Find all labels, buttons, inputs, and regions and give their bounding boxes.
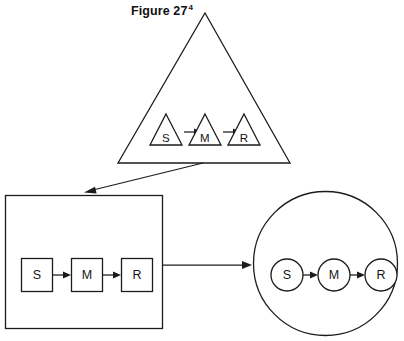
circle-panel: S M R bbox=[254, 192, 398, 336]
connector-triangle-to-square bbox=[84, 163, 203, 193]
inner-circle-r-label: R bbox=[376, 268, 385, 282]
circle-node-s: S bbox=[271, 259, 303, 291]
square-node-m: M bbox=[72, 259, 103, 292]
inner-square-s-label: S bbox=[33, 268, 42, 282]
square-node-r: R bbox=[122, 259, 153, 292]
inner-triangle-s-label: S bbox=[162, 132, 170, 144]
triangle-panel: S M R bbox=[118, 13, 290, 163]
inner-triangle-m-label: M bbox=[200, 132, 210, 144]
connector-square-to-circle bbox=[163, 261, 252, 269]
inner-circle-s-label: S bbox=[283, 268, 292, 282]
square-panel: S M R bbox=[6, 196, 163, 329]
figure-diagram: S M R bbox=[0, 0, 404, 341]
inner-square-r-label: R bbox=[132, 268, 141, 282]
circle-node-m: M bbox=[318, 259, 350, 291]
figure-canvas: Figure 274 S M bbox=[0, 0, 404, 341]
circle-node-r: R bbox=[365, 259, 397, 291]
square-node-s: S bbox=[22, 259, 53, 292]
inner-circle-m-label: M bbox=[329, 268, 340, 282]
inner-square-m-label: M bbox=[82, 268, 93, 282]
inner-triangle-r-label: R bbox=[240, 132, 249, 144]
